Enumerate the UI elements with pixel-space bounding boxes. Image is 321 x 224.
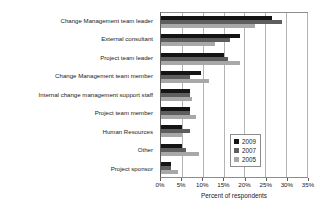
tick-label: 35% — [302, 181, 314, 188]
bar-2005-2 — [161, 61, 240, 65]
legend-label: 2009 — [242, 138, 256, 145]
category-label: External consultant — [0, 30, 157, 48]
bar-group — [161, 31, 307, 49]
legend-entry: 2009 — [234, 137, 256, 146]
legend: 200920072005 — [230, 134, 261, 167]
bar-group — [161, 49, 307, 67]
legend-swatch-icon — [234, 148, 239, 153]
bar-2005-6 — [161, 133, 182, 137]
legend-swatch-icon — [234, 139, 239, 144]
category-label: Human Resources — [0, 123, 157, 141]
bar-group — [161, 13, 307, 31]
category-label: Internal change management support staff — [0, 86, 157, 104]
category-label: Project team member — [0, 104, 157, 122]
category-label: Change Management team leader — [0, 12, 157, 30]
tick-label: 20% — [238, 181, 250, 188]
tick-label: 30% — [281, 181, 293, 188]
tick-label: 0% — [156, 181, 165, 188]
category-label: Other — [0, 141, 157, 159]
bar-group — [161, 86, 307, 104]
legend-entry: 2007 — [234, 146, 256, 155]
bar-2005-8 — [161, 170, 178, 174]
bar-group — [161, 68, 307, 86]
value-axis: 0%5%10%15%20%25%30%35% — [160, 178, 308, 190]
tick-label: 15% — [217, 181, 229, 188]
category-label: Project sponsor — [0, 160, 157, 178]
bar-2005-3 — [161, 79, 209, 83]
legend-entry: 2005 — [234, 155, 256, 164]
bar-group — [161, 104, 307, 122]
tick-label: 25% — [260, 181, 272, 188]
bar-2005-7 — [161, 152, 199, 156]
bar-2005-1 — [161, 42, 215, 46]
legend-label: 2007 — [242, 147, 256, 154]
tick-label: 10% — [196, 181, 208, 188]
gridline — [307, 13, 308, 177]
bar-2005-5 — [161, 115, 196, 119]
category-label: Project team leader — [0, 49, 157, 67]
bar-2005-0 — [161, 24, 255, 28]
tick-label: 5% — [177, 181, 186, 188]
category-label: Change Management team member — [0, 67, 157, 85]
bar-2005-4 — [161, 97, 192, 101]
bar-chart: Change Management team leaderExternal co… — [0, 0, 321, 224]
legend-label: 2005 — [242, 156, 256, 163]
category-axis: Change Management team leaderExternal co… — [0, 12, 157, 178]
legend-swatch-icon — [234, 157, 239, 162]
x-axis-title: Percent of respondents — [160, 192, 308, 199]
